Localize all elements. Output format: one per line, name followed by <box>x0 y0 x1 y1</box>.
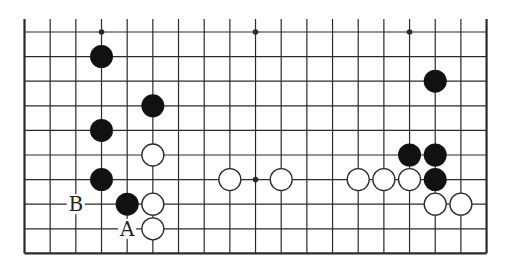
star-point <box>407 29 413 35</box>
white-stone <box>347 169 369 191</box>
white-stone <box>399 169 421 191</box>
white-stone <box>270 169 292 191</box>
black-stone <box>116 193 139 216</box>
star-point <box>99 29 105 35</box>
star-point <box>253 29 259 35</box>
white-stone <box>142 193 164 215</box>
black-stone <box>398 144 421 167</box>
black-stone <box>424 168 447 191</box>
white-stone <box>219 169 241 191</box>
point-label-b: B <box>68 192 83 216</box>
white-stone <box>424 193 446 215</box>
black-stone <box>90 45 113 68</box>
white-stone <box>142 144 164 166</box>
white-stone <box>142 218 164 240</box>
white-stone <box>450 193 472 215</box>
point-label-a: A <box>119 217 135 241</box>
black-stone <box>424 70 447 93</box>
star-point <box>253 177 259 183</box>
black-stone <box>141 94 164 117</box>
black-stone <box>90 168 113 191</box>
white-stone <box>373 169 395 191</box>
black-stone <box>424 144 447 167</box>
black-stone <box>90 119 113 142</box>
go-board-diagram: BA <box>0 0 520 272</box>
